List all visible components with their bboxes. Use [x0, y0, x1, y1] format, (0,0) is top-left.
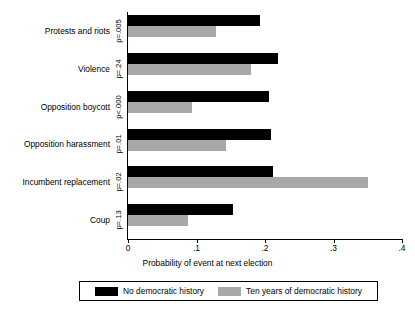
legend-entry-no-democratic-history: No democratic history	[95, 286, 204, 296]
pvalue-annotation: p=.02	[113, 163, 125, 201]
x-axis-tick-label: .4	[399, 243, 406, 253]
bar-group	[128, 12, 402, 50]
bar-group	[128, 163, 402, 201]
x-axis-tick-label: .1	[193, 243, 200, 253]
chart-legend: No democratic history Ten years of democ…	[79, 281, 378, 301]
category-label: Coup	[0, 215, 110, 225]
bar	[128, 26, 216, 37]
bar	[128, 91, 269, 102]
bar	[128, 204, 233, 215]
bar-group	[128, 88, 402, 126]
category-label: Incumbent replacement	[0, 177, 110, 187]
bar-group	[128, 201, 402, 239]
bar	[128, 177, 368, 188]
plot-area	[128, 12, 402, 239]
pvalue-annotation: p=.13	[113, 201, 125, 239]
pvalue-text: p=.24	[115, 59, 123, 78]
category-label: Protests and riots	[0, 26, 110, 36]
bar	[128, 64, 251, 75]
bar	[128, 53, 278, 64]
category-label: Violence	[0, 64, 110, 74]
x-axis-title: Probability of event at next election	[0, 258, 415, 269]
pvalue-text: p=.01	[115, 135, 123, 154]
x-axis-tick-label: .3	[330, 243, 337, 253]
pvalue-annotation: p=.24	[113, 50, 125, 88]
bar	[128, 166, 273, 177]
pvalue-text: p=.13	[115, 210, 123, 229]
x-axis-tick-label: 0	[126, 243, 131, 253]
pvalue-annotation: p=.01	[113, 126, 125, 164]
legend-label: Ten years of democratic history	[246, 286, 362, 296]
bar-group	[128, 126, 402, 164]
horizontal-bar-chart: Protests and riotsViolenceOpposition boy…	[0, 0, 415, 313]
pvalue-annotation: p<.000	[113, 88, 125, 126]
pvalue-text: p=.02	[115, 173, 123, 192]
bar	[128, 140, 226, 151]
bar	[128, 129, 271, 140]
category-label: Opposition harassment	[0, 139, 110, 149]
pvalue-text: p=.005	[115, 19, 123, 42]
x-axis-tick-label: .2	[262, 243, 269, 253]
legend-label: No democratic history	[123, 286, 204, 296]
pvalue-text: p<.000	[115, 95, 123, 118]
gray-swatch-icon	[218, 287, 241, 296]
bar	[128, 102, 192, 113]
category-label: Opposition boycott	[0, 102, 110, 112]
pvalue-annotation: p=.005	[113, 12, 125, 50]
bar-group	[128, 50, 402, 88]
bar	[128, 15, 260, 26]
legend-entry-ten-years-of-democratic-history: Ten years of democratic history	[218, 286, 362, 296]
black-swatch-icon	[95, 287, 118, 296]
bar	[128, 215, 188, 226]
